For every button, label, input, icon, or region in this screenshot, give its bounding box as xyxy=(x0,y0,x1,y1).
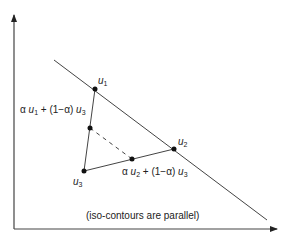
label-mix13: α u1 + (1−α) u3 xyxy=(20,105,86,115)
label-mix13-plus: + (1−α) xyxy=(38,104,76,115)
point-mix23 xyxy=(130,157,135,162)
point-u2 xyxy=(172,147,177,152)
iso-contour-line xyxy=(54,60,267,220)
label-mix23-plus: + (1−α) xyxy=(140,166,178,177)
label-u2-sub: 2 xyxy=(184,141,188,148)
point-mix13 xyxy=(88,126,93,131)
point-u3 xyxy=(82,169,87,174)
label-mix13-s2: 3 xyxy=(82,109,86,116)
point-u1 xyxy=(93,87,98,92)
label-u2: u2 xyxy=(178,137,187,147)
diagram-canvas xyxy=(0,0,292,244)
label-u3: u3 xyxy=(73,177,82,187)
caption: (iso-contours are parallel) xyxy=(86,210,199,221)
label-u3-sub: 3 xyxy=(79,181,83,188)
alpha-symbol: α xyxy=(122,166,128,177)
label-u1-sub: 1 xyxy=(104,80,108,87)
label-mix23-s2: 3 xyxy=(184,171,188,178)
dashed-connector xyxy=(90,128,132,159)
label-u1: u1 xyxy=(98,76,107,86)
alpha-symbol: α xyxy=(20,104,26,115)
label-mix23: α u2 + (1−α) u3 xyxy=(122,167,188,177)
